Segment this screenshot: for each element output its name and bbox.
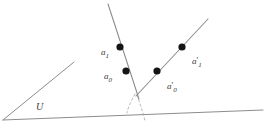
dashed-right-branch bbox=[137, 95, 145, 121]
label-a0: a0 bbox=[104, 66, 112, 82]
label-a0-prime-base: a bbox=[167, 81, 172, 91]
label-a0-prime: a'0 bbox=[167, 76, 177, 92]
label-a0-prime-sub: 0 bbox=[173, 86, 177, 94]
point-a1 bbox=[116, 43, 123, 50]
label-a1-sub: 1 bbox=[106, 52, 110, 60]
label-a1: a1 bbox=[101, 42, 109, 58]
figure-canvas: a1 a0 a'0 a'1 U bbox=[0, 0, 266, 128]
label-a1-prime: a'1 bbox=[192, 51, 202, 67]
left-line bbox=[108, 4, 139, 99]
label-a1-prime-sub: 1 bbox=[198, 61, 202, 69]
point-a1-prime bbox=[178, 43, 185, 50]
label-a0-base: a bbox=[104, 71, 109, 81]
point-a0-prime bbox=[153, 67, 160, 74]
points-group bbox=[116, 43, 185, 74]
dashed-curves-group bbox=[127, 94, 145, 121]
label-a0-sub: 0 bbox=[109, 76, 113, 84]
dashed-left-branch bbox=[127, 94, 135, 113]
label-plane-u: U bbox=[36, 101, 43, 112]
label-a1-prime-base: a bbox=[192, 56, 197, 66]
point-a0 bbox=[122, 67, 129, 74]
label-a1-base: a bbox=[101, 47, 106, 57]
